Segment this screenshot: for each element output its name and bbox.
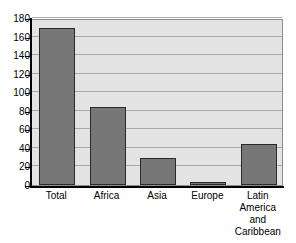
y-tick-label: 120 [4, 70, 30, 80]
y-tick-label: 40 [4, 144, 30, 154]
bar-chart: 020406080100120140160180 TotalAfricaAsia… [0, 0, 296, 243]
bar [190, 182, 226, 185]
x-tick-label: Africa [81, 190, 131, 202]
x-tick-label: Europe [182, 190, 232, 202]
x-tick-label: Total [31, 190, 81, 202]
bar [140, 158, 176, 185]
bar [90, 107, 126, 185]
x-tick-label: Asia [132, 190, 182, 202]
y-tick-label: 0 [4, 181, 30, 191]
plot-area [31, 19, 283, 186]
y-tick-label: 20 [4, 162, 30, 172]
bar [241, 144, 277, 185]
x-tick-label: Latin America and Caribbean [233, 190, 283, 238]
bar [39, 28, 75, 185]
x-axis-labels: TotalAfricaAsiaEuropeLatin America and C… [31, 190, 283, 243]
y-tick-label: 80 [4, 107, 30, 117]
y-tick-label: 180 [4, 14, 30, 24]
y-axis-line [30, 18, 32, 188]
gridline [32, 17, 282, 18]
y-tick-label: 160 [4, 33, 30, 43]
y-tick-label: 60 [4, 125, 30, 135]
x-axis-line [30, 186, 284, 188]
y-tick-label: 100 [4, 88, 30, 98]
y-tick-label: 140 [4, 51, 30, 61]
bars-layer [32, 20, 282, 185]
y-axis-ticks: 020406080100120140160180 [0, 0, 30, 243]
